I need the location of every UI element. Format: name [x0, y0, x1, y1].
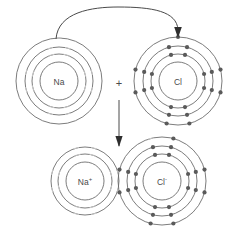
electron-dot [134, 172, 138, 176]
electron-dot [126, 188, 130, 192]
electron-dot [202, 86, 206, 90]
electron-dot [169, 105, 173, 109]
electron-dot [133, 90, 137, 94]
electron-tick [91, 87, 92, 92]
electron-tick [50, 106, 55, 107]
electron-tick [74, 213, 79, 214]
electron-dot [218, 68, 222, 72]
electron-tick [65, 47, 70, 48]
electron-dot [183, 53, 187, 57]
electron-dot [169, 145, 173, 149]
electron-dot [117, 190, 121, 194]
electron-tick [74, 147, 79, 148]
electron-tick [110, 185, 111, 190]
electron-dot [185, 113, 189, 117]
electron-dot [202, 190, 206, 194]
electron-dot [151, 145, 155, 149]
electron-dot [194, 188, 198, 192]
electron-tick [25, 87, 26, 92]
electron-tick [110, 172, 111, 177]
electron-dot [210, 88, 214, 92]
electron-dot [117, 168, 121, 172]
electron-tick [63, 106, 68, 107]
electron-tick [65, 113, 70, 114]
chloride-ion-group: Cl- [117, 136, 206, 225]
electron-dot [142, 88, 146, 92]
electron-dot [186, 186, 190, 190]
chlorine-atom-group: Cl [133, 35, 222, 126]
electron-tick [91, 213, 96, 214]
atom-label: Cl [174, 77, 182, 87]
electron-dot [187, 121, 191, 125]
atom-label: Na [54, 77, 65, 87]
electron-transfer-arrow-icon [56, 7, 178, 39]
ionic-bonding-diagram: Na Cl Na+ Cl- + [0, 0, 238, 237]
electron-tick [58, 185, 59, 190]
sodium-atom-group: Na [16, 38, 102, 124]
electron-dot [169, 53, 173, 57]
electron-tick [76, 206, 81, 207]
electron-dot [165, 121, 169, 125]
electron-dot [186, 172, 190, 176]
electron-dot [167, 45, 171, 49]
electron-tick [89, 206, 94, 207]
electron-dot [167, 153, 171, 157]
electron-tick [84, 72, 85, 77]
electron-tick [91, 147, 96, 148]
electron-dot [126, 170, 130, 174]
electron-tick [32, 85, 33, 90]
electron-tick [84, 85, 85, 90]
electron-dot [133, 68, 137, 72]
electron-dot [153, 205, 157, 209]
electron-dot [151, 213, 155, 217]
electron-dot [153, 153, 157, 157]
electron-transfer-arrowhead-icon [174, 27, 182, 38]
electron-dot [169, 213, 173, 217]
electron-tick [25, 70, 26, 75]
diagram-canvas: Na Cl Na+ Cl- + [0, 0, 238, 237]
electron-tick [76, 154, 81, 155]
electron-tick [63, 54, 68, 55]
electron-dot [202, 168, 206, 172]
electron-tick [48, 47, 53, 48]
electron-tick [91, 70, 92, 75]
electron-tick [58, 172, 59, 177]
electron-dot [183, 105, 187, 109]
sodium-ion-group: Na+ [51, 147, 119, 215]
electron-tick [89, 154, 94, 155]
electron-dot [185, 45, 189, 49]
reaction-arrowhead-icon [115, 136, 122, 147]
electron-dot [134, 186, 138, 190]
electron-tick [51, 170, 52, 175]
electron-tick [48, 113, 53, 114]
electron-dot [171, 136, 175, 140]
electron-dot [150, 72, 154, 76]
electron-dot [150, 86, 154, 90]
electron-dot [167, 205, 171, 209]
electron-dot [194, 170, 198, 174]
electron-dot [218, 90, 222, 94]
electron-tick [148, 138, 153, 139]
electron-tick [50, 54, 55, 55]
electron-dot [171, 221, 175, 225]
electron-dot [149, 221, 153, 225]
electron-dot [167, 113, 171, 117]
electron-dot [210, 70, 214, 74]
electron-dot [202, 72, 206, 76]
electron-tick [51, 187, 52, 192]
plus-operator-label: + [116, 77, 122, 89]
electron-tick [32, 72, 33, 77]
electron-dot [142, 70, 146, 74]
